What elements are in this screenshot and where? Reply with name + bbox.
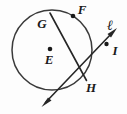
point-dot-f xyxy=(71,14,76,19)
point-dot-i xyxy=(104,42,108,46)
point-label-i: I xyxy=(111,43,118,58)
point-label-e: E xyxy=(44,52,54,67)
point-dot-e xyxy=(48,47,53,52)
point-label-g: G xyxy=(37,16,47,31)
line-label-l: ℓ xyxy=(107,18,113,33)
point-label-h: H xyxy=(85,80,97,95)
point-label-f: F xyxy=(77,2,87,17)
geometry-figure: E F G H I ℓ xyxy=(0,0,127,114)
line-l-shaft xyxy=(46,33,113,103)
geometry-canvas: E F G H I ℓ xyxy=(0,0,127,114)
